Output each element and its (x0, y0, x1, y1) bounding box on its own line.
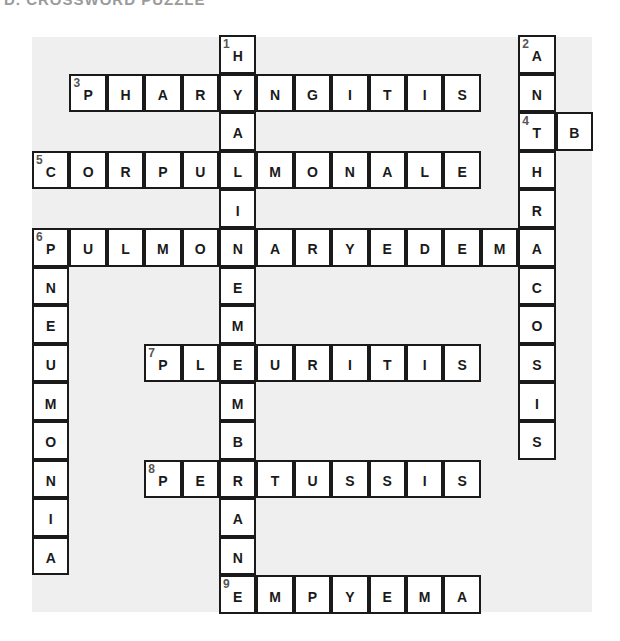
crossword-cell[interactable]: 4T (518, 112, 555, 151)
cell-letter: C (532, 280, 542, 296)
crossword-cell[interactable]: 5C (32, 151, 69, 190)
crossword-cell[interactable]: M (481, 228, 518, 267)
crossword-cell[interactable]: E (219, 344, 256, 383)
crossword-cell[interactable]: U (294, 460, 331, 499)
crossword-cell[interactable]: O (69, 151, 106, 190)
crossword-cell[interactable]: G (294, 74, 331, 113)
crossword-cell[interactable]: A (518, 228, 555, 267)
crossword-cell[interactable]: O (182, 228, 219, 267)
crossword-cell[interactable]: S (369, 460, 406, 499)
crossword-cell[interactable]: 7P (144, 344, 181, 383)
crossword-cell[interactable]: I (32, 498, 69, 537)
crossword-cell[interactable]: R (182, 74, 219, 113)
cell-letter: T (533, 125, 542, 141)
crossword-cell[interactable]: 8P (144, 460, 181, 499)
crossword-cell[interactable]: A (369, 151, 406, 190)
crossword-cell[interactable]: L (107, 228, 144, 267)
crossword-cell[interactable]: D (406, 228, 443, 267)
crossword-cell[interactable]: I (406, 344, 443, 383)
crossword-cell[interactable]: S (443, 344, 480, 383)
crossword-cell[interactable]: O (32, 421, 69, 460)
crossword-cell[interactable]: M (219, 305, 256, 344)
crossword-cell[interactable]: N (331, 151, 368, 190)
crossword-cell[interactable]: I (406, 74, 443, 113)
crossword-cell[interactable]: O (294, 151, 331, 190)
cell-letter: M (157, 241, 169, 257)
crossword-cell[interactable]: T (369, 74, 406, 113)
crossword-cell[interactable]: S (518, 421, 555, 460)
crossword-cell[interactable]: M (32, 382, 69, 421)
crossword-cell[interactable]: 9E (219, 575, 256, 614)
crossword-cell[interactable]: R (294, 344, 331, 383)
cell-letter: R (195, 87, 205, 103)
crossword-cell[interactable]: E (219, 267, 256, 306)
crossword-cell[interactable]: R (219, 460, 256, 499)
crossword-cell[interactable]: L (219, 151, 256, 190)
crossword-cell[interactable]: E (443, 151, 480, 190)
crossword-cell[interactable]: N (32, 460, 69, 499)
crossword-cell[interactable]: N (32, 267, 69, 306)
crossword-cell[interactable]: L (182, 344, 219, 383)
crossword-cell[interactable]: R (294, 228, 331, 267)
clue-number: 6 (36, 230, 43, 244)
crossword-cell[interactable]: U (69, 228, 106, 267)
crossword-cell[interactable]: 1H (219, 35, 256, 74)
crossword-cell[interactable]: R (518, 189, 555, 228)
crossword-cell[interactable]: A (144, 74, 181, 113)
cell-letter: G (307, 87, 318, 103)
clue-number: 2 (522, 37, 529, 51)
crossword-cell[interactable]: U (182, 151, 219, 190)
clue-number: 5 (36, 153, 43, 167)
crossword-cell[interactable]: 6P (32, 228, 69, 267)
crossword-cell[interactable]: Y (219, 74, 256, 113)
crossword-cell[interactable]: E (369, 228, 406, 267)
crossword-cell[interactable]: S (443, 460, 480, 499)
crossword-cell[interactable]: I (518, 382, 555, 421)
crossword-cell[interactable]: M (256, 151, 293, 190)
crossword-cell[interactable]: I (219, 189, 256, 228)
crossword-cell[interactable]: O (518, 305, 555, 344)
crossword-cell[interactable]: L (406, 151, 443, 190)
crossword-cell[interactable]: I (331, 74, 368, 113)
crossword-cell[interactable]: E (369, 575, 406, 614)
crossword-cell[interactable]: N (518, 74, 555, 113)
crossword-cell[interactable]: B (219, 421, 256, 460)
crossword-cell[interactable]: M (256, 575, 293, 614)
crossword-cell[interactable]: S (518, 344, 555, 383)
crossword-cell[interactable]: A (32, 537, 69, 576)
crossword-cell[interactable]: I (406, 460, 443, 499)
crossword-cell[interactable]: P (294, 575, 331, 614)
crossword-cell[interactable]: E (182, 460, 219, 499)
crossword-cell[interactable]: T (369, 344, 406, 383)
crossword-cell[interactable]: U (256, 344, 293, 383)
crossword-cell[interactable]: U (32, 344, 69, 383)
crossword-cell[interactable]: S (331, 460, 368, 499)
crossword-cell[interactable]: M (219, 382, 256, 421)
crossword-cell[interactable]: H (107, 74, 144, 113)
crossword-cell[interactable]: A (219, 498, 256, 537)
crossword-cell[interactable]: M (144, 228, 181, 267)
crossword-cell[interactable]: Y (331, 228, 368, 267)
crossword-cell[interactable]: T (256, 460, 293, 499)
crossword-cell[interactable]: E (443, 228, 480, 267)
crossword-cell[interactable]: R (107, 151, 144, 190)
cell-letter: A (382, 164, 392, 180)
crossword-cell[interactable]: C (518, 267, 555, 306)
crossword-board (32, 37, 592, 612)
crossword-cell[interactable]: S (443, 74, 480, 113)
crossword-cell[interactable]: E (32, 305, 69, 344)
crossword-cell[interactable]: N (219, 228, 256, 267)
crossword-cell[interactable]: A (256, 228, 293, 267)
crossword-cell[interactable]: P (144, 151, 181, 190)
crossword-cell[interactable]: Y (331, 575, 368, 614)
crossword-cell[interactable]: N (256, 74, 293, 113)
crossword-cell[interactable]: A (443, 575, 480, 614)
crossword-cell[interactable]: N (219, 537, 256, 576)
crossword-cell[interactable]: 3P (69, 74, 106, 113)
crossword-cell[interactable]: 2A (518, 35, 555, 74)
crossword-cell[interactable]: H (518, 151, 555, 190)
crossword-cell[interactable]: B (556, 112, 593, 151)
crossword-cell[interactable]: M (406, 575, 443, 614)
crossword-cell[interactable]: I (331, 344, 368, 383)
crossword-cell[interactable]: A (219, 112, 256, 151)
